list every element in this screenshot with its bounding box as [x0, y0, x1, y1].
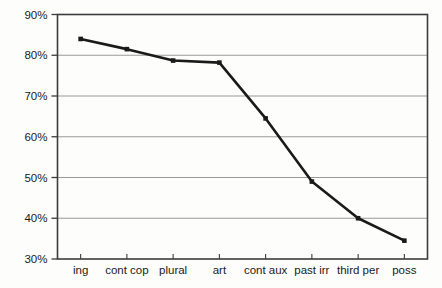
- x-tick-label-cont-aux: cont aux: [244, 264, 288, 276]
- y-tick-label: 40%: [24, 212, 47, 224]
- chart-container: 30%40%50%60%70%80%90% ingcont copplurala…: [0, 0, 442, 288]
- y-tick-label: 60%: [24, 131, 47, 143]
- x-tick-label-cont-cop: cont cop: [105, 264, 148, 276]
- y-tick-label: 30%: [24, 253, 47, 265]
- x-tick-label-third-per: third per: [337, 264, 379, 276]
- x-tick-label-past-irr: past irr: [294, 264, 329, 276]
- data-point-marker: [310, 179, 315, 184]
- x-tick-labels-group: ingcont coppluralartcont auxpast irrthir…: [73, 264, 417, 276]
- y-tick-label: 70%: [24, 90, 47, 102]
- x-tick-label-poss: poss: [392, 264, 417, 276]
- data-point-marker: [402, 238, 407, 243]
- y-tick-label: 50%: [24, 172, 47, 184]
- data-point-marker: [263, 116, 268, 121]
- data-point-marker: [78, 37, 83, 42]
- y-tick-label: 80%: [24, 49, 47, 61]
- x-tick-label-ing: ing: [73, 264, 88, 276]
- data-point-marker: [356, 216, 361, 221]
- chart-background: [0, 0, 442, 288]
- x-tick-label-art: art: [213, 264, 227, 276]
- x-tick-label-plural: plural: [159, 264, 187, 276]
- data-point-marker: [171, 58, 176, 63]
- data-point-marker: [125, 47, 130, 52]
- y-tick-label: 90%: [24, 9, 47, 21]
- data-point-marker: [217, 60, 222, 65]
- line-chart: 30%40%50%60%70%80%90% ingcont copplurala…: [0, 0, 442, 288]
